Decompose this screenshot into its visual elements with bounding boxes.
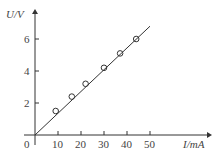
x-arrow-icon bbox=[207, 132, 212, 138]
y-tick-label: 6 bbox=[24, 33, 30, 45]
x-tick-label: 50 bbox=[144, 138, 156, 150]
y-tick-label: 4 bbox=[24, 65, 30, 77]
x-tick-label: 20 bbox=[75, 138, 87, 150]
data-point bbox=[69, 94, 75, 100]
data-point bbox=[117, 51, 123, 57]
x-tick-label: 10 bbox=[52, 138, 64, 150]
x-tick-label: 30 bbox=[98, 138, 110, 150]
x-tick-label: 40 bbox=[121, 138, 133, 150]
axes bbox=[24, 14, 207, 145]
chart-svg: 1020304050246 0 I/mA U/V bbox=[0, 0, 213, 161]
fit-line bbox=[35, 26, 150, 135]
y-arrow-icon bbox=[32, 9, 38, 14]
y-axis-label: U/V bbox=[6, 8, 25, 20]
chart: 1020304050246 0 I/mA U/V bbox=[0, 0, 213, 161]
x-axis-label: I/mA bbox=[182, 138, 205, 150]
origin-label: 0 bbox=[24, 138, 30, 150]
data-point bbox=[53, 108, 59, 114]
data-point bbox=[83, 81, 89, 87]
y-tick-label: 2 bbox=[24, 97, 30, 109]
